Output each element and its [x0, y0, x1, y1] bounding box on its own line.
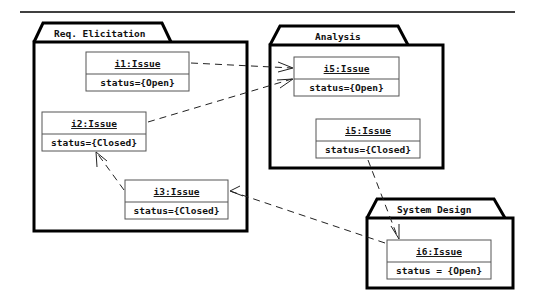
object-name: i5:Issue	[345, 125, 391, 136]
object-i1-issue[interactable]: i1:Issue status={Open}	[86, 52, 189, 91]
object-attribute: status = {Open}	[396, 265, 482, 276]
object-i5-issue-open[interactable]: i5:Issue status={Open}	[294, 57, 399, 96]
object-name: i3:Issue	[154, 186, 200, 197]
object-attribute: status={Open}	[100, 77, 174, 88]
object-attribute: status={Closed}	[134, 205, 220, 216]
package-title: Analysis	[315, 31, 361, 42]
package-title: Req. Elicitation	[54, 28, 146, 39]
object-name: i1:Issue	[115, 58, 161, 69]
package-title: System Design	[397, 204, 471, 215]
object-i5-issue-closed[interactable]: i5:Issue status={Closed}	[316, 119, 420, 158]
object-name: i6:Issue	[416, 246, 462, 257]
object-i2-issue[interactable]: i2:Issue status={Closed}	[42, 112, 146, 151]
object-attribute: status={Closed}	[51, 137, 137, 148]
object-name: i2:Issue	[71, 118, 117, 129]
object-attribute: status={Closed}	[325, 144, 411, 155]
object-name: i5:Issue	[324, 63, 370, 74]
object-attribute: status={Open}	[309, 82, 383, 93]
object-i3-issue[interactable]: i3:Issue status={Closed}	[125, 180, 228, 219]
dependency-i6-to-i3	[230, 186, 385, 243]
uml-object-diagram: Req. Elicitation Analysis System Design …	[0, 0, 541, 307]
object-i6-issue[interactable]: i6:Issue status = {Open}	[387, 240, 491, 279]
